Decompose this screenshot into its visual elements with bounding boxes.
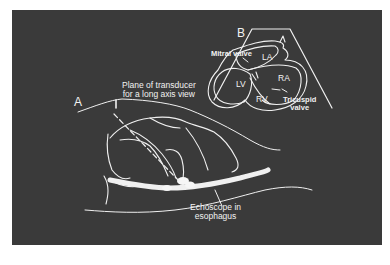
chamber-rv-label: RV	[256, 95, 268, 104]
transducer-plane-line	[114, 100, 180, 182]
tricuspid-line-2: valve	[283, 104, 316, 112]
chamber-lv-label: LV	[236, 80, 246, 89]
heart-sagittal-drawing	[104, 117, 238, 204]
echoscope-line-2: esophagus	[190, 212, 241, 221]
plane-label-line-2: for a long axis view	[122, 90, 196, 99]
chamber-la-label: LA	[262, 53, 272, 62]
anatomical-illustration	[0, 0, 390, 265]
echoscope-label: Echoscope in esophagus	[190, 203, 241, 222]
plane-of-transducer-label: Plane of transducer for a long axis view	[122, 81, 196, 100]
mitral-valve-label: Mitral valve	[211, 50, 252, 58]
tricuspid-valve-label: Tricuspid valve	[283, 96, 316, 113]
body-contour-lines	[78, 99, 312, 212]
panel-b-label: B	[237, 27, 245, 40]
echoscope-in-esophagus	[110, 170, 268, 191]
chamber-ra-label: RA	[278, 74, 290, 83]
panel-a-label: A	[74, 96, 82, 109]
